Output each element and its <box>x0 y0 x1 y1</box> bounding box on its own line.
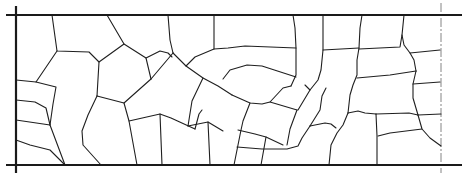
grain-boundary <box>195 110 202 129</box>
grain-boundary <box>188 78 203 126</box>
walls <box>6 6 462 173</box>
grain-boundary <box>238 130 283 145</box>
grain-boundary <box>223 65 296 79</box>
grain-boundary <box>16 140 65 165</box>
grain-boundary <box>418 115 441 146</box>
grain-boundary <box>232 86 291 104</box>
grain-boundary <box>348 111 376 114</box>
grain-boundaries <box>16 15 441 165</box>
grain-boundary <box>323 48 359 50</box>
grain-boundary <box>168 15 173 53</box>
grain-boundary <box>186 46 296 66</box>
grain-boundary <box>376 113 418 115</box>
grain-boundary <box>188 122 223 131</box>
grain-boundary <box>16 51 57 82</box>
grain-boundary <box>413 82 440 84</box>
grain-boundary <box>99 44 124 62</box>
grain-boundary <box>107 15 151 79</box>
cell-boundary-diagram <box>0 0 465 173</box>
grain-boundary <box>357 71 416 78</box>
grain-boundary <box>151 53 173 79</box>
grain-boundary <box>270 102 297 110</box>
grain-boundary <box>146 51 172 58</box>
grain-boundary <box>52 15 99 96</box>
grain-boundary <box>234 103 250 165</box>
grain-boundary <box>261 137 266 165</box>
grain-boundary <box>310 88 326 126</box>
grain-boundary <box>129 114 195 129</box>
grain-boundary <box>376 114 377 165</box>
grain-boundary <box>36 82 56 125</box>
grain-boundary <box>287 110 297 145</box>
grain-boundary <box>124 79 151 165</box>
grain-boundary <box>378 129 422 136</box>
grain-boundary <box>359 15 404 49</box>
grain-boundary <box>413 71 418 115</box>
grain-boundary <box>97 96 124 103</box>
grain-boundary <box>310 123 336 128</box>
grain-boundary <box>237 126 310 149</box>
grain-boundary <box>173 53 232 95</box>
grain-boundary <box>410 50 440 53</box>
grain-boundary <box>160 114 162 165</box>
grain-boundary <box>208 122 210 165</box>
grain-boundary <box>305 85 310 90</box>
grain-boundary <box>418 114 441 115</box>
grain-boundary <box>298 15 323 110</box>
grain-boundary <box>82 96 101 165</box>
grain-boundary <box>329 113 348 165</box>
grain-boundary <box>348 15 362 113</box>
